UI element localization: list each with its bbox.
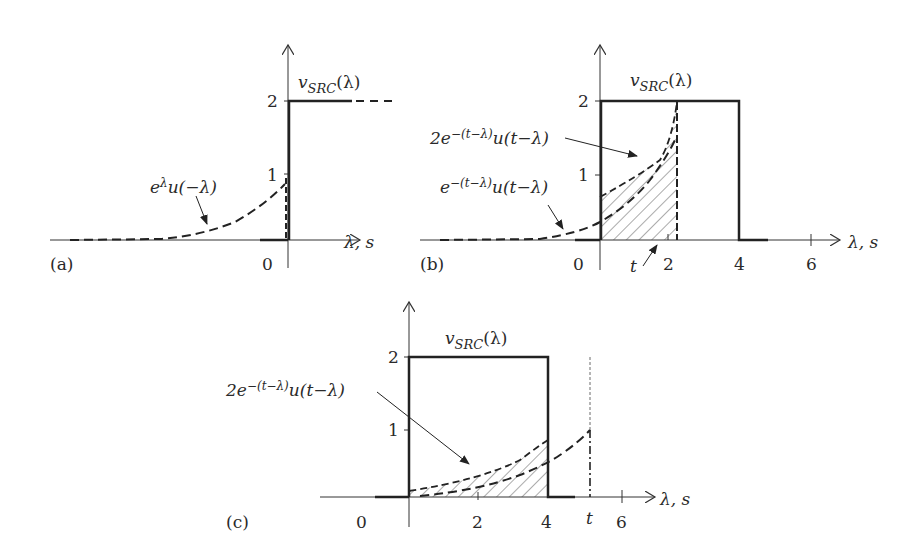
x-tick-0: 0 [573, 254, 584, 274]
convolution-figure: 2 1 0 eλu(−λ) vSRC(λ) λ, s (a) 2 1 0 2 4… [0, 0, 923, 553]
curve-label-b-1x: e−(t−λ)u(t−λ) [440, 176, 548, 197]
y-tick-2: 2 [578, 91, 589, 111]
x-tick-0: 0 [356, 512, 367, 532]
x-tick-6: 6 [806, 254, 817, 274]
panel-a: 2 1 0 eλu(−λ) vSRC(λ) λ, s (a) [50, 45, 392, 274]
axis-label-a: λ, s [343, 232, 375, 252]
x-tick-2: 2 [663, 254, 674, 274]
x-tick-0: 0 [262, 254, 273, 274]
t-marker-b: t [630, 256, 637, 276]
panel-c: 2 1 0 2 4 6 2e−(t−λ)u(t−λ) vSRC(λ) t λ, … [225, 302, 691, 532]
t-marker-c: t [586, 508, 593, 528]
y-tick-2: 2 [388, 347, 399, 367]
axis-label-b: λ, s [847, 232, 879, 252]
axis-label-c: λ, s [659, 489, 691, 509]
panel-tag-c: (c) [226, 512, 249, 532]
x-tick-6: 6 [616, 512, 627, 532]
signal-label-b: vSRC(λ) [630, 70, 692, 94]
panel-tag-a: (a) [50, 254, 73, 274]
y-tick-1: 1 [388, 420, 399, 440]
y-tick-1: 1 [578, 165, 589, 185]
y-tick-2: 2 [267, 91, 278, 111]
x-tick-2: 2 [472, 512, 483, 532]
signal-label-c: vSRC(λ) [445, 328, 507, 352]
panel-b: 2 1 0 2 4 6 2e−(t−λ)u(t−λ) e−(t−λ)u(t−λ)… [420, 45, 879, 276]
y-tick-1: 1 [267, 165, 278, 185]
curve-label-b-2x: 2e−(t−λ)u(t−λ) [429, 127, 549, 148]
vsrc-step [289, 101, 352, 240]
curve-label-a: eλu(−λ) [150, 176, 217, 197]
x-tick-4: 4 [734, 254, 745, 274]
curve-label-c: 2e−(t−λ)u(t−λ) [225, 379, 345, 400]
panel-tag-b: (b) [420, 254, 444, 274]
signal-label-a: vSRC(λ) [298, 72, 360, 96]
x-tick-4: 4 [541, 512, 552, 532]
